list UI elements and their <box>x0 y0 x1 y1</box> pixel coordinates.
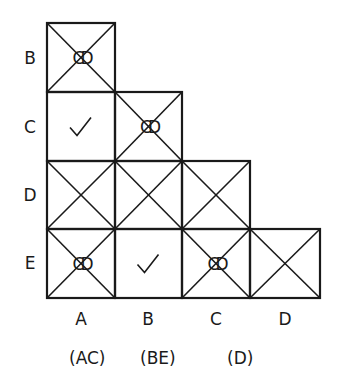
cd-mark: CD <box>140 117 161 137</box>
cell-ed <box>250 229 320 298</box>
cell-cb: CD <box>115 92 182 161</box>
cell-da <box>47 161 115 229</box>
cd-mark: CD <box>73 254 94 274</box>
implication-chart: CDCDCDCD B C D E A B C D (AC) (BE) (D) <box>0 0 337 389</box>
check-icon <box>138 255 159 273</box>
cell-ec: CD <box>182 229 250 298</box>
row-label-b: B <box>20 48 40 68</box>
row-label-c: C <box>20 117 40 137</box>
col-label-a: A <box>61 309 101 329</box>
cell-ea: CD <box>47 229 115 298</box>
check-icon <box>70 118 91 136</box>
cell-ca <box>47 92 115 161</box>
group-ac: (AC) <box>69 348 105 368</box>
cd-mark: CD <box>208 254 229 274</box>
implication-grid: CDCDCDCD <box>0 0 337 389</box>
cell-ba: CD <box>47 23 115 92</box>
cell-eb <box>115 229 182 298</box>
cd-mark: CD <box>73 48 94 68</box>
group-be: (BE) <box>140 348 176 368</box>
col-label-b: B <box>128 309 168 329</box>
row-label-e: E <box>20 253 40 273</box>
col-label-d: D <box>265 309 305 329</box>
cell-dc <box>182 161 250 229</box>
row-label-d: D <box>20 185 40 205</box>
col-label-c: C <box>196 309 236 329</box>
cell-db <box>115 161 182 229</box>
group-d: (D) <box>227 348 253 368</box>
